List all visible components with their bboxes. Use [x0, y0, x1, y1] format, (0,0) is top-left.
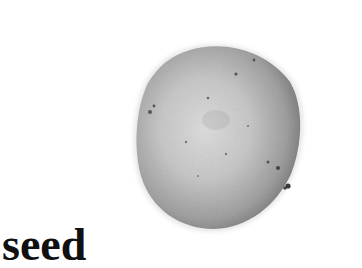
- seed-image: [128, 36, 308, 236]
- seed-label: seed: [2, 222, 86, 268]
